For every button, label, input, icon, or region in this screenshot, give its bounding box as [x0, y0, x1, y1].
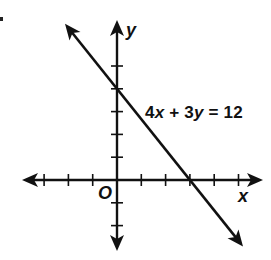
y-axis — [110, 20, 124, 251]
x-axis — [22, 173, 263, 187]
coefficient-a: 4 — [145, 103, 155, 122]
line-start-arrow-icon — [65, 24, 80, 41]
line-end-arrow-icon — [228, 230, 243, 247]
equals-sign: = — [204, 103, 224, 122]
constant: 12 — [224, 103, 243, 122]
x-axis-label: x — [238, 187, 248, 205]
plus-sign: + — [164, 103, 184, 122]
origin-label: O — [98, 184, 112, 202]
y-variable: y — [194, 103, 204, 122]
equation-label: 4x + 3y = 12 — [145, 104, 243, 121]
x-variable: x — [155, 103, 165, 122]
equation-line — [65, 24, 243, 247]
y-axis-label: y — [126, 21, 136, 39]
coefficient-b: 3 — [184, 103, 194, 122]
